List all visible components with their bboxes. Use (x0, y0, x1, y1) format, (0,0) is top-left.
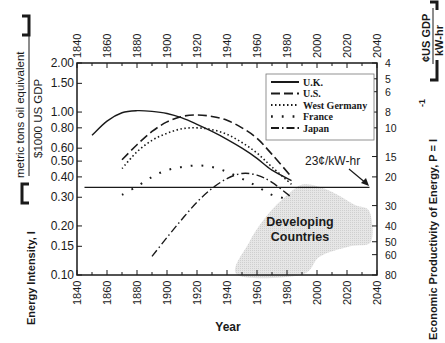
y-tick-label-right: 15 (385, 151, 397, 163)
y-tick-label-right: 8 (385, 106, 391, 118)
reference-line-label: 23¢/kW-hr (305, 154, 360, 168)
legend-label-u-s: U.S. (303, 88, 321, 99)
series-line-france (122, 165, 292, 199)
x-tick-label-bottom: 1900 (161, 281, 173, 305)
x-tick-label-top: 1980 (281, 34, 293, 58)
x-tick-label-top: 2040 (371, 34, 383, 58)
right-axis-exponent: -1 (417, 99, 427, 107)
y-tick-label-left: 0.60 (51, 141, 75, 155)
right-unit-numerator: ¢US GDP (420, 14, 432, 62)
y-tick-label-right: 30 (385, 200, 397, 212)
x-tick-label-bottom: 2040 (371, 281, 383, 305)
y-tick-label-left: 0.20 (51, 219, 75, 233)
y-tick-label-right: 50 (385, 236, 397, 248)
legend-label-france: France (303, 111, 334, 122)
x-tick-label-bottom: 1840 (71, 281, 83, 305)
reference-arrow-head (361, 178, 369, 186)
x-tick-label-bottom: 2000 (311, 281, 323, 305)
x-tick-label-top: 1880 (131, 34, 143, 58)
x-tick-label-bottom: 1940 (221, 281, 233, 305)
x-tick-label-top: 1960 (251, 34, 263, 58)
y-tick-label-left: 0.30 (51, 190, 75, 204)
x-tick-label-top: 1940 (221, 34, 233, 58)
x-tick-label-bottom: 1880 (131, 281, 143, 305)
left-axis-title: Energy Intensity, I (25, 231, 37, 325)
x-tick-label-top: 1900 (161, 34, 173, 58)
chart: 1840184018601860188018801900190019201920… (0, 0, 445, 343)
left-bracket-top (22, 16, 29, 35)
left-axis-title-group: Energy Intensity, I (25, 231, 37, 325)
y-tick-label-right: 10 (385, 122, 397, 134)
right-axis-title: Economic Productivity of Energy, P = I (427, 139, 439, 340)
y-tick-label-left: 2.00 (51, 56, 75, 70)
x-tick-label-top: 1860 (101, 34, 113, 58)
series-line-u-k (92, 111, 292, 181)
y-tick-label-right: 40 (385, 220, 397, 232)
x-axis-title: Year (215, 320, 241, 334)
x-tick-label-bottom: 1960 (251, 281, 263, 305)
x-tick-label-bottom: 1920 (191, 281, 203, 305)
x-tick-label-top: 1840 (71, 34, 83, 58)
x-tick-label-bottom: 1860 (101, 281, 113, 305)
y-tick-label-right: 4 (385, 57, 391, 69)
legend-label-u-k: U.K. (303, 77, 324, 88)
left-unit-denominator: $1000 US GDP (32, 78, 44, 158)
x-tick-label-bottom: 2020 (341, 281, 353, 305)
region-label-line1: Developing (266, 215, 333, 229)
right-unit-denominator: kW-hr (433, 24, 445, 56)
y-tick-label-right: 60 (385, 249, 397, 261)
y-tick-label-left: 0.40 (51, 170, 75, 184)
left-axis-unit-group: metric tons oil equivalent $1000 US GDP (14, 16, 44, 203)
y-tick-label-left: 0.80 (51, 121, 75, 135)
y-tick-label-left: 0.15 (51, 239, 75, 253)
y-tick-label-left: 1.50 (51, 76, 75, 90)
y-tick-label-left: 0.10 (51, 268, 75, 282)
y-tick-label-left: 0.50 (51, 154, 75, 168)
y-tick-label-left: 1.00 (51, 105, 75, 119)
x-tick-label-bottom: 1980 (281, 281, 293, 305)
x-tick-label-top: 1920 (191, 34, 203, 58)
legend-label-west-germany: West Germany (303, 100, 367, 111)
left-unit-numerator: metric tons oil equivalent (14, 51, 26, 178)
y-tick-label-right: 20 (385, 171, 397, 183)
x-tick-label-top: 2000 (311, 34, 323, 58)
left-bracket-bottom (22, 184, 29, 203)
y-tick-label-right: 5 (385, 73, 391, 85)
right-axis-title-group: Economic Productivity of Energy, P = I -… (417, 2, 445, 340)
legend: U.K.U.S.West GermanyFranceJapan (266, 74, 374, 140)
y-tick-label-right: 80 (385, 269, 397, 281)
x-tick-label-top: 2020 (341, 34, 353, 58)
y-tick-label-right: 6 (385, 86, 391, 98)
legend-label-japan: Japan (303, 123, 330, 134)
region-label-line2: Countries (271, 230, 329, 244)
